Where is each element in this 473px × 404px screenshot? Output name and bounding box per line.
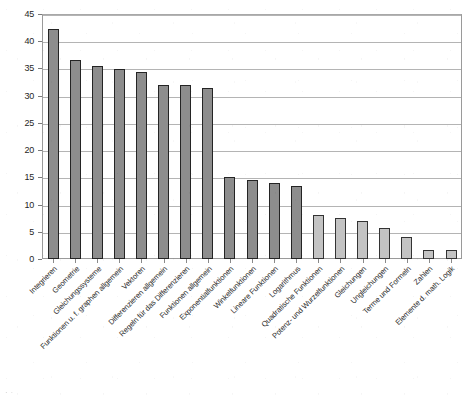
- bar[interactable]: [70, 60, 81, 259]
- bar[interactable]: [158, 85, 169, 259]
- bar[interactable]: [357, 221, 368, 259]
- y-axis-tick-label: 40: [24, 37, 34, 46]
- y-axis-tick-label: 20: [24, 146, 34, 155]
- y-axis-tick-label: 25: [24, 119, 34, 128]
- figure-caption-strip: [0, 392, 473, 404]
- bar-slot: [86, 14, 108, 259]
- bar[interactable]: [379, 228, 390, 259]
- bar-slot: [108, 14, 130, 259]
- bar-slot: [307, 14, 329, 259]
- bar-slot: [153, 14, 175, 259]
- bar[interactable]: [202, 88, 213, 259]
- bar[interactable]: [224, 177, 235, 259]
- scan-artifact-icon: [4, 392, 14, 393]
- bar-slot: [263, 14, 285, 259]
- bar[interactable]: [313, 215, 324, 259]
- bar[interactable]: [269, 183, 280, 259]
- bar[interactable]: [446, 250, 457, 259]
- bar[interactable]: [335, 218, 346, 259]
- bar-slot: [418, 14, 440, 259]
- y-axis-tick-label: 5: [29, 228, 34, 237]
- y-axis: 454035302520151050: [0, 14, 42, 260]
- bar[interactable]: [48, 29, 59, 259]
- bar-slot: [241, 14, 263, 259]
- bar-slot: [396, 14, 418, 259]
- bar-slot: [329, 14, 351, 259]
- bar-slot: [197, 14, 219, 259]
- bar[interactable]: [114, 69, 125, 259]
- y-axis-tick-label: 0: [29, 255, 34, 264]
- bar-slot: [352, 14, 374, 259]
- bar[interactable]: [180, 85, 191, 259]
- bar-slot: [175, 14, 197, 259]
- bar[interactable]: [247, 180, 258, 259]
- bar-slot: [64, 14, 86, 259]
- y-axis-tick-label: 15: [24, 173, 34, 182]
- y-axis-tick-label: 10: [24, 201, 34, 210]
- bars-container: [42, 14, 462, 259]
- bar-chart-figure: 454035302520151050 IntegrierenGeometrieG…: [0, 0, 473, 404]
- bar-slot: [374, 14, 396, 259]
- x-axis-label-cell: Elemente d. math. Logik: [440, 263, 462, 388]
- y-axis-tick-label: 35: [24, 64, 34, 73]
- y-axis-tick-label: 30: [24, 92, 34, 101]
- bar-slot: [130, 14, 152, 259]
- bar-slot: [219, 14, 241, 259]
- bar[interactable]: [92, 66, 103, 259]
- bar-slot: [285, 14, 307, 259]
- y-axis-tick-label: 45: [24, 10, 34, 19]
- bar[interactable]: [401, 237, 412, 259]
- x-axis-labels: IntegrierenGeometrieGleichungssystemeFun…: [42, 263, 462, 388]
- bar-slot: [42, 14, 64, 259]
- bar[interactable]: [136, 72, 147, 259]
- bar[interactable]: [291, 186, 302, 259]
- bar[interactable]: [423, 250, 434, 259]
- bar-slot: [440, 14, 462, 259]
